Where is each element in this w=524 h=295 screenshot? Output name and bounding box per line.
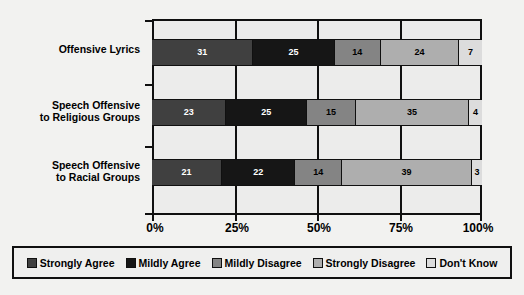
bar-segment: 3 (472, 160, 482, 185)
legend-label: Mildly Agree (139, 257, 201, 269)
legend-item[interactable]: Strongly Agree (27, 257, 115, 269)
category-axis-labels: Offensive Lyrics Speech Offensive to Rel… (0, 19, 148, 215)
x-axis-label-50: 50% (307, 221, 331, 235)
bar-row: 212214393 (152, 159, 482, 186)
bar-segment: 21 (152, 160, 222, 185)
bar-segment-value: 3 (474, 168, 479, 177)
x-axis-label-25: 25% (225, 221, 249, 235)
legend-item[interactable]: Strongly Disagree (313, 257, 416, 269)
legend-item[interactable]: Mildly Agree (126, 257, 201, 269)
bar-segment-value: 21 (181, 168, 191, 177)
bar-segment: 39 (342, 160, 472, 185)
bar-segment: 31 (152, 40, 253, 65)
stacked-bar-chart: Offensive Lyrics Speech Offensive to Rel… (0, 0, 524, 295)
bar-segment-value: 24 (414, 48, 424, 57)
cropped-title-sliver (0, 0, 524, 7)
category-label-religious-groups: Speech Offensive to Religious Groups (40, 99, 140, 123)
bar-segment-value: 23 (184, 108, 194, 117)
bar-segment: 15 (307, 100, 356, 125)
bar-segment-value: 25 (261, 108, 271, 117)
legend-label: Strongly Disagree (326, 257, 416, 269)
bar-segment-value: 31 (197, 48, 207, 57)
legend-swatch-icon (212, 258, 222, 268)
bar-segment-value: 7 (468, 48, 473, 57)
bar-segment-value: 25 (289, 48, 299, 57)
x-axis-labels: 0% 25% 50% 75% 100% (0, 221, 524, 237)
legend-label: Don't Know (439, 257, 497, 269)
legend-item[interactable]: Don't Know (426, 257, 497, 269)
x-axis-label-100: 100% (463, 221, 494, 235)
legend-label: Strongly Agree (40, 257, 115, 269)
legend-swatch-icon (27, 258, 37, 268)
bar-segment: 4 (469, 100, 482, 125)
x-axis-label-0: 0% (146, 221, 163, 235)
bar-segment-value: 14 (313, 168, 323, 177)
bar-segment: 24 (381, 40, 459, 65)
bar-segment: 14 (295, 160, 342, 185)
bar-segment: 35 (356, 100, 469, 125)
plot-area: 312514247232515354212214393 (152, 19, 482, 215)
bar-row: 312514247 (152, 39, 482, 66)
category-label-racial-groups: Speech Offensive to Racial Groups (52, 159, 140, 183)
bar-row: 232515354 (152, 99, 482, 126)
chart-legend: Strongly AgreeMildly AgreeMildly Disagre… (12, 246, 512, 279)
category-label-offensive-lyrics: Offensive Lyrics (59, 43, 140, 55)
bar-segment-value: 4 (473, 108, 478, 117)
legend-swatch-icon (126, 258, 136, 268)
bar-segment-value: 14 (352, 48, 362, 57)
legend-label: Mildly Disagree (225, 257, 302, 269)
bar-segment: 22 (222, 160, 295, 185)
bar-segment-value: 15 (326, 108, 336, 117)
bar-segment-value: 22 (253, 168, 263, 177)
legend-swatch-icon (313, 258, 323, 268)
bar-segment: 25 (253, 40, 335, 65)
legend-swatch-icon (426, 258, 436, 268)
x-axis-label-75: 75% (389, 221, 413, 235)
bar-segment: 14 (335, 40, 381, 65)
bar-segment: 23 (152, 100, 226, 125)
bar-segment-value: 35 (407, 108, 417, 117)
legend-item[interactable]: Mildly Disagree (212, 257, 302, 269)
bar-rows: 312514247232515354212214393 (152, 19, 482, 215)
bar-segment: 25 (226, 100, 307, 125)
bar-segment: 7 (459, 40, 482, 65)
bar-segment-value: 39 (401, 168, 411, 177)
